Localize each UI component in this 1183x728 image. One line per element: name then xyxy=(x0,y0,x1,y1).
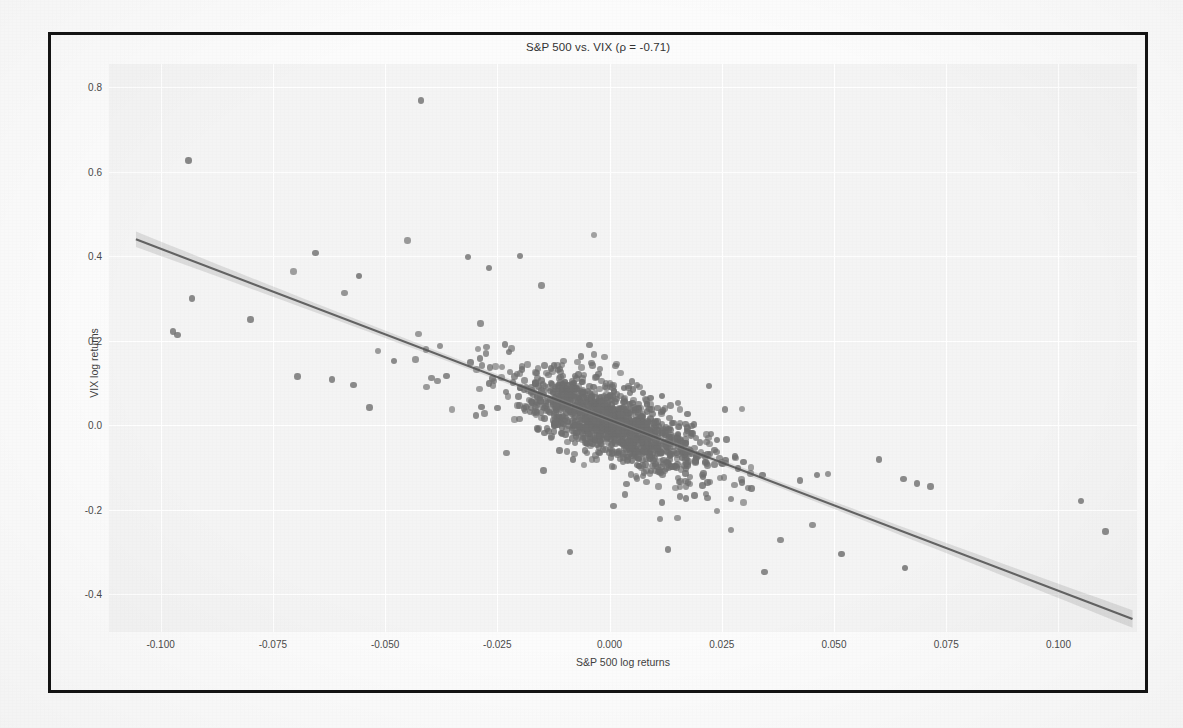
y-tick-label: 0.8 xyxy=(88,82,102,93)
x-tick-label: 0.050 xyxy=(821,639,846,650)
x-axis-label: S&P 500 log returns xyxy=(109,656,1137,668)
x-tick-label: 0.075 xyxy=(934,639,959,650)
y-tick-label: -0.2 xyxy=(85,504,102,515)
scanned-page: the notebook reports the correlation bet… xyxy=(0,0,1183,728)
scatter-figure: S&P 500 vs. VIX (ρ = -0.71) 0.80.60.40.2… xyxy=(51,35,1145,690)
regression-line xyxy=(136,239,1133,619)
y-tick-label: 0.0 xyxy=(88,420,102,431)
x-tick-label: 0.025 xyxy=(709,639,734,650)
x-tick-label: -0.075 xyxy=(259,639,287,650)
plot-area: 0.80.60.40.20.0-0.2-0.4 -0.100-0.075-0.0… xyxy=(109,64,1137,632)
y-tick-label: 0.6 xyxy=(88,166,102,177)
regression-line-layer xyxy=(109,64,1137,632)
y-tick-label: -0.4 xyxy=(85,588,102,599)
x-tick-label: 0.000 xyxy=(597,639,622,650)
x-tick-label: -0.050 xyxy=(371,639,399,650)
x-tick-label: -0.100 xyxy=(146,639,174,650)
figure-frame: S&P 500 vs. VIX (ρ = -0.71) 0.80.60.40.2… xyxy=(48,32,1148,693)
chart-title: S&P 500 vs. VIX (ρ = -0.71) xyxy=(51,41,1145,53)
y-tick-label: 0.4 xyxy=(88,251,102,262)
y-axis-label: VIX log returns xyxy=(88,328,100,397)
x-tick-label: -0.025 xyxy=(483,639,511,650)
x-tick-label: 0.100 xyxy=(1046,639,1071,650)
